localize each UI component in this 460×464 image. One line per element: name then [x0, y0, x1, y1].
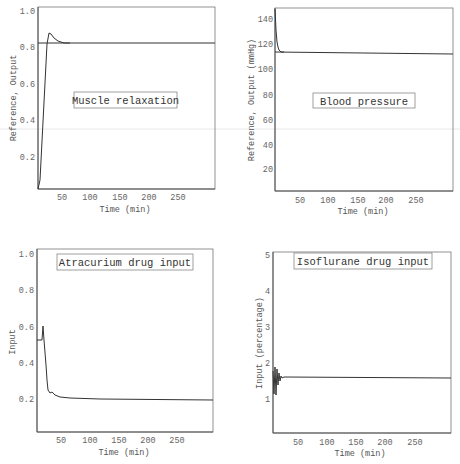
svg-text:0.8: 0.8	[20, 43, 35, 53]
svg-text:200: 200	[378, 196, 393, 206]
figure: 1.0 0.8 0.6 0.4 0.2 50 100 150 200 250 T…	[0, 0, 460, 464]
svg-text:250: 250	[169, 436, 184, 446]
svg-text:50: 50	[295, 196, 305, 206]
x-axis-label: Time (min)	[334, 449, 385, 459]
y-tick-labels: 5 4 3 2 1	[265, 251, 270, 405]
title-box: Muscle relaxation	[72, 92, 179, 108]
plot-frame	[273, 252, 451, 433]
svg-text:Isoflurane drug input: Isoflurane drug input	[297, 256, 429, 268]
x-tick-labels: 50 100 150 200 250	[56, 436, 185, 446]
y-axis-label: Input	[8, 329, 18, 355]
svg-text:3: 3	[265, 323, 270, 333]
x-axis-label: Time (min)	[98, 448, 149, 458]
y-tick-labels: 1.0 0.8 0.6 0.4 0.2	[19, 250, 34, 405]
x-axis-label: Time (min)	[337, 207, 388, 217]
plot-muscle-relaxation: 1.0 0.8 0.6 0.4 0.2 50 100 150 200 250 T…	[9, 7, 215, 215]
svg-text:20: 20	[263, 165, 273, 175]
svg-text:200: 200	[140, 436, 155, 446]
svg-text:100: 100	[319, 438, 334, 448]
svg-text:0.6: 0.6	[20, 80, 35, 90]
x-tick-labels: 50 100 150 200 250	[293, 438, 423, 448]
title-box: Blood pressure	[313, 93, 415, 108]
svg-text:2: 2	[265, 359, 270, 369]
x-axis-label: Time (min)	[99, 205, 150, 215]
svg-text:200: 200	[377, 438, 392, 448]
title-box: Isoflurane drug input	[294, 253, 432, 269]
input-curve	[37, 326, 213, 400]
svg-text:50: 50	[56, 436, 66, 446]
svg-text:140: 140	[258, 15, 273, 25]
output-curve	[38, 33, 70, 189]
output-curve	[275, 9, 284, 52]
x-tick-labels: 50 100 150 200 250	[295, 196, 424, 206]
svg-text:250: 250	[407, 438, 422, 448]
svg-text:5: 5	[265, 251, 270, 261]
svg-text:120: 120	[258, 40, 273, 50]
y-axis-label: Reference, Output (mmHg)	[247, 39, 257, 161]
svg-text:150: 150	[350, 196, 365, 206]
x-tick-labels: 50 100 150 200 250	[57, 193, 186, 203]
svg-text:1: 1	[265, 395, 270, 405]
svg-text:60: 60	[263, 116, 273, 126]
svg-text:0.4: 0.4	[20, 116, 35, 126]
reference-line	[275, 52, 453, 54]
svg-text:50: 50	[57, 193, 67, 203]
svg-text:0.6: 0.6	[19, 323, 34, 333]
plot-atracurium-drug-input: 1.0 0.8 0.6 0.4 0.2 50 100 150 200 250 T…	[8, 249, 213, 458]
svg-text:250: 250	[170, 193, 185, 203]
svg-text:Blood pressure: Blood pressure	[320, 96, 408, 108]
svg-text:100: 100	[258, 65, 273, 75]
svg-text:100: 100	[82, 193, 97, 203]
svg-text:100: 100	[320, 196, 335, 206]
plot-frame	[37, 249, 213, 432]
svg-text:250: 250	[408, 196, 423, 206]
svg-text:40: 40	[263, 141, 273, 151]
svg-text:Muscle relaxation: Muscle relaxation	[72, 95, 179, 107]
title-box: Atracurium drug input	[57, 254, 193, 270]
y-axis-label: Input (percentage)	[255, 297, 265, 389]
svg-text:0.2: 0.2	[19, 395, 34, 405]
svg-text:1.0: 1.0	[20, 7, 35, 17]
svg-text:1.0: 1.0	[19, 250, 34, 260]
svg-text:0.8: 0.8	[19, 286, 34, 296]
svg-text:80: 80	[263, 91, 273, 101]
plot-isoflurane-drug-input: 5 4 3 2 1 50 100 150 200 250 Time (min) …	[255, 251, 451, 459]
svg-text:200: 200	[141, 193, 156, 203]
y-tick-labels: 1.0 0.8 0.6 0.4 0.2	[20, 7, 35, 163]
svg-text:4: 4	[265, 287, 270, 297]
y-tick-labels: 140 120 100 80 60 40 20	[258, 15, 273, 175]
y-axis-label: Reference, Output	[9, 55, 19, 142]
svg-text:0.4: 0.4	[19, 359, 34, 369]
svg-text:150: 150	[111, 436, 126, 446]
svg-text:0.2: 0.2	[20, 153, 35, 163]
svg-text:150: 150	[112, 193, 127, 203]
plot-blood-pressure: 140 120 100 80 60 40 20 50 100 150 200 2…	[247, 8, 453, 217]
input-curve	[273, 367, 451, 395]
svg-text:Atracurium drug input: Atracurium drug input	[59, 257, 191, 269]
svg-text:150: 150	[348, 438, 363, 448]
svg-text:100: 100	[82, 436, 97, 446]
svg-text:50: 50	[293, 438, 303, 448]
